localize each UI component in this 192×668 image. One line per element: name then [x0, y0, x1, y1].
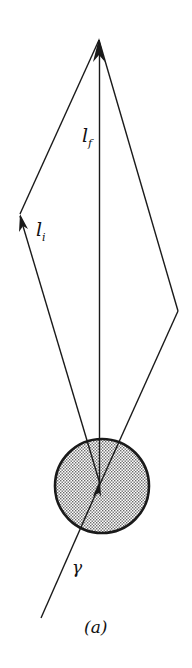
label-gamma: γ: [72, 557, 82, 577]
l-i-vector: [20, 216, 100, 484]
label-l-i-sub: i: [42, 231, 46, 244]
label-l-f: lf: [82, 124, 92, 150]
right-upper-edge: [99, 40, 178, 311]
vector-diagram: [0, 0, 192, 668]
label-l-f-sub: f: [88, 137, 92, 150]
figure-caption: (a): [84, 617, 107, 637]
label-l-i: li: [36, 218, 46, 244]
nucleus-circle: [55, 439, 149, 533]
